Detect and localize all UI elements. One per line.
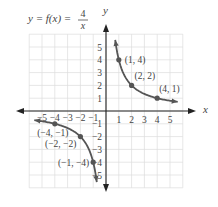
axes [16,24,196,192]
y-axis-label: y [102,4,108,16]
x-tick-label: 5 [168,115,173,125]
x-axis-label: x [202,103,208,115]
equation-numerator: 4 [81,8,86,19]
y-tick-label: 3 [97,68,102,78]
y-tick-label: −3 [92,145,102,155]
x-tick-label: 4 [155,115,160,125]
y-tick-label: 2 [97,81,102,91]
x-tick-label: −2 [75,113,85,123]
data-point [116,57,121,62]
point-label: (−2, −2) [45,139,76,150]
y-tick-label: 5 [97,43,102,53]
equation-denominator: x [80,20,86,31]
y-axis-arrow-up [103,24,109,32]
y-tick-label: −2 [92,132,102,142]
data-point [78,134,83,139]
x-tick-label: 2 [129,115,134,125]
data-points: (1, 4)(2, 2)(4, 1)(−4, −1)(−2, −2)(−1, −… [37,55,180,169]
data-point [91,160,96,165]
point-label: (−1, −4) [58,158,89,169]
data-point [155,96,160,101]
point-label: (1, 4) [125,55,146,66]
point-label: (−4, −1) [37,128,68,139]
y-tick-label: −1 [92,119,102,129]
x-tick-label: −3 [63,113,73,123]
y-tick-label: 4 [97,55,102,65]
x-tick-label: 3 [142,115,147,125]
data-point [129,83,134,88]
x-axis-arrow-left [16,108,24,114]
graph: −5−4−3−2−112345−5−4−3−2−112345 (1, 4)(2,… [0,0,218,207]
point-label: (4, 1) [159,84,180,95]
equation-label: y = f(x) = 4 x [27,8,88,31]
equation-lhs: y = f(x) = [27,12,71,25]
x-tick-label: 1 [116,115,121,125]
y-tick-label: 1 [97,94,102,104]
point-label: (2, 2) [135,71,156,82]
data-point [52,121,57,126]
x-axis-arrow-right [188,108,196,114]
